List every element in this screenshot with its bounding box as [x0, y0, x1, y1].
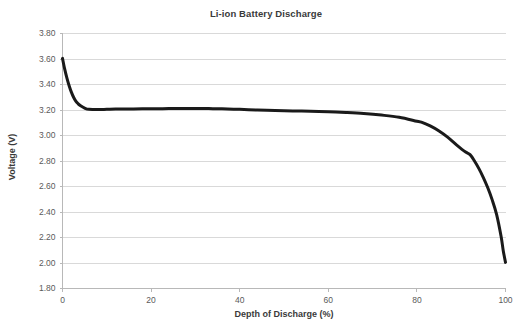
tick-marks — [60, 34, 506, 292]
plot-area — [0, 0, 532, 334]
x-tick-label: 100 — [486, 295, 526, 305]
y-tick-label: 3.20 — [22, 105, 56, 115]
y-tick-label: 3.40 — [22, 79, 56, 89]
x-tick-label: 40 — [220, 295, 260, 305]
gridlines — [63, 34, 506, 289]
y-tick-label: 3.00 — [22, 130, 56, 140]
y-tick-label: 2.40 — [22, 207, 56, 217]
y-tick-label: 1.80 — [22, 283, 56, 293]
y-tick-label: 2.80 — [22, 156, 56, 166]
chart-container: Li-ion Battery Discharge Voltage (V) Dep… — [0, 0, 532, 334]
x-tick-label: 80 — [397, 295, 437, 305]
series-line-0 — [63, 58, 506, 262]
y-tick-label: 3.60 — [22, 54, 56, 64]
y-tick-label: 2.00 — [22, 258, 56, 268]
y-tick-label: 2.60 — [22, 181, 56, 191]
y-tick-label: 2.20 — [22, 232, 56, 242]
y-tick-label: 3.80 — [22, 28, 56, 38]
series-paths — [63, 58, 506, 262]
x-tick-label: 0 — [43, 295, 83, 305]
x-tick-label: 20 — [131, 295, 171, 305]
x-tick-label: 60 — [308, 295, 348, 305]
